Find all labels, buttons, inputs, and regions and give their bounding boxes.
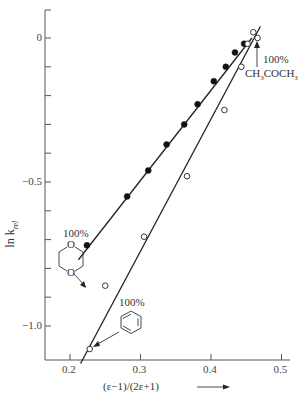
filled-data-point	[181, 121, 187, 127]
open-data-point	[251, 29, 257, 35]
x-tick-label: 0.3	[133, 363, 147, 375]
acetone-annotation-formula: CH3COCH3	[245, 67, 298, 82]
dioxane-oxygen-bottom: O	[67, 266, 75, 278]
x-axis-label: (ε−1)/(2ε+1)	[103, 380, 159, 392]
dioxane-oxygen-top: O	[67, 238, 75, 250]
y-tick-label: −0.5	[22, 175, 42, 187]
benzene-structure-icon	[121, 311, 141, 334]
x-tick-label: 0.4	[203, 363, 217, 375]
filled-data-point	[164, 142, 170, 148]
y-axis-label: ln krel	[3, 221, 19, 248]
open-data-point	[255, 35, 261, 41]
open-data-point	[245, 41, 251, 47]
fit-line	[78, 38, 251, 260]
filled-data-point	[84, 242, 90, 248]
formula-part: CH	[245, 67, 260, 79]
open-data-point	[102, 283, 108, 289]
benzene-arrow	[96, 332, 119, 345]
y-axis-label-sub: rel	[11, 221, 20, 230]
axes	[45, 10, 290, 360]
filled-data-point	[211, 78, 217, 84]
y-tick-label: −1.0	[22, 319, 42, 331]
open-data-point	[87, 346, 93, 352]
open-data-point	[239, 64, 245, 70]
open-data-point	[141, 234, 147, 240]
open-data-point	[222, 107, 228, 113]
filled-data-point	[195, 101, 201, 107]
filled-data-point	[145, 167, 151, 173]
filled-data-point	[124, 193, 130, 199]
acetone-annotation-pct: 100%	[263, 53, 289, 65]
fit-line	[81, 26, 261, 363]
y-tick-label: 0	[37, 31, 43, 43]
chart-plot	[0, 0, 307, 399]
filled-data-point	[223, 64, 229, 70]
x-tick-label: 0.5	[274, 363, 288, 375]
formula-sub: 3	[294, 74, 298, 82]
benzene-annotation: 100%	[119, 296, 145, 308]
formula-part: COCH	[264, 67, 295, 79]
fit-lines	[78, 26, 260, 363]
x-tick-label: 0.2	[62, 363, 76, 375]
y-axis-label-main: ln k	[3, 229, 17, 247]
open-data-point	[184, 173, 190, 179]
filled-data-point	[232, 49, 238, 55]
